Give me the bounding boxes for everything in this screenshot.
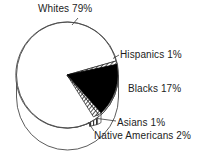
pie-label-blacks: Blacks 17% [128, 83, 181, 94]
pie-label-native-americans: Native Americans 2% [94, 130, 191, 141]
pie-label-asians: Asians 1% [117, 117, 165, 128]
pie-chart-figure: Whites 79% Hispanics 1% Blacks 17% Asian… [0, 0, 201, 153]
pie-label-hispanics: Hispanics 1% [120, 49, 182, 60]
pie-top-face [16, 22, 119, 128]
pie-label-whites: Whites 79% [38, 3, 92, 14]
